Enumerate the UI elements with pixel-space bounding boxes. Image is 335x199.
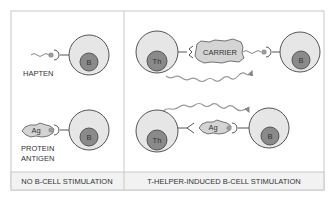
th-cell-label: Th [153,136,162,145]
epitope-dot-icon [226,125,231,130]
th-cell-label: Th [153,57,162,66]
footer-left: NO B-CELL STIMULATION [21,177,112,186]
b-cell-label: B [86,133,91,142]
hapten-dot-icon [48,52,53,57]
b-cell-left-top: B [69,35,109,75]
b-cell-left-bottom: B [69,110,109,150]
b-cell-label: B [86,58,91,67]
antigen-label: Ag [31,126,40,135]
protein-label: PROTEIN [21,144,54,153]
b-cell-label: B [267,132,272,141]
th-cell-right-bottom: Th [136,110,178,152]
b-cell-right-top: B [280,32,320,72]
th-cell-right-top: Th [136,31,178,73]
antigen-label: Ag [208,123,217,132]
b-cell-label: B [298,56,303,65]
diagram: HAPTEN B Ag PROTEIN ANTIGEN B NO B-CELL … [0,0,335,199]
b-cell-right-bottom: B [249,108,289,148]
antigen-label-line2: ANTIGEN [21,154,54,163]
hapten-label: HAPTEN [23,69,53,78]
hapten-dot-icon [261,49,266,54]
carrier-label: CARRIER [203,48,237,57]
footer-right: T-HELPER-INDUCED B-CELL STIMULATION [147,177,300,186]
epitope-dot-icon [48,127,53,132]
carrier-group: CARRIER [195,39,244,63]
